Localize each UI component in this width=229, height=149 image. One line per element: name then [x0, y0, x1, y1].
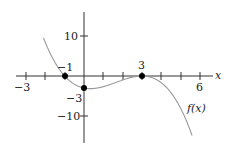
- point-label-neg1: −1: [57, 61, 73, 74]
- y-tick-label-10: 10: [64, 30, 78, 43]
- point-label-3: 3: [138, 59, 145, 72]
- y-tick-label-neg10: −10: [57, 110, 80, 123]
- x-tick-label-6: 6: [196, 81, 203, 94]
- function-graph: −3 6 x 10 −10 −1 −3 3 f(x): [0, 0, 229, 149]
- x-axis-label: x: [215, 69, 222, 82]
- x-tick-label-neg3: −3: [14, 81, 30, 94]
- point-label-neg3: −3: [66, 92, 82, 105]
- function-label: f(x): [186, 102, 206, 115]
- root-point-3: [139, 73, 145, 79]
- y-intercept-point: [81, 85, 87, 91]
